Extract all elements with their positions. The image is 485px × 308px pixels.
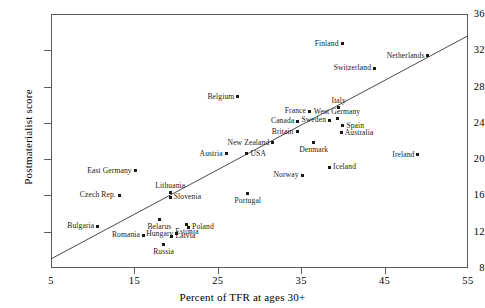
data-point-marker [416,153,419,156]
data-point-marker [158,218,161,221]
x-tick-label: 5 [31,276,71,286]
y-tick-mark [44,232,51,233]
data-point-label: Italy [332,97,346,105]
scatter-chart: 812162024283236 51525354555 FinlandNethe… [0,0,485,308]
data-point-label: Portugal [235,197,262,205]
data-point-marker [246,192,249,195]
data-point-label: New Zealand [228,139,270,147]
data-point-marker [118,194,121,197]
data-point-marker [187,226,190,229]
x-tick-label: 15 [114,276,154,286]
data-point-label: Russia [153,248,174,256]
data-point-marker [296,120,299,123]
x-axis-title: Percent of TFR at ages 30+ [0,291,485,303]
data-point-label: Czech Rep. [80,191,116,199]
data-point-label: Belgium [207,93,234,101]
data-point-marker [296,130,299,133]
data-point-label: Netherlands [387,52,425,60]
data-point-label: Ireland [392,151,414,159]
data-point-label: Romania [112,231,140,239]
data-point-marker [236,95,239,98]
data-point-marker [312,141,315,144]
data-point-marker [336,117,339,120]
y-tick-label: 24 [447,118,485,128]
data-point-label: Austria [200,150,223,158]
data-point-label: Norway [273,171,298,179]
data-point-label: East Germany [87,167,131,175]
data-point-label: Sweden [301,116,326,124]
y-tick-label: 28 [447,82,485,92]
data-point-marker [245,152,248,155]
data-point-label: Canada [271,117,294,125]
data-point-label: Hungary [146,230,173,238]
data-point-label: Slovenia [174,193,201,201]
y-tick-label: 12 [447,227,485,237]
x-tick-label: 55 [448,276,485,286]
data-point-label: Poland [192,223,214,231]
data-point-marker [328,119,331,122]
data-point-marker [426,54,429,57]
data-point-marker [308,110,311,113]
data-point-label: Australia [345,129,374,137]
y-tick-label: 8 [447,263,485,273]
y-tick-mark [44,87,51,88]
x-tick-mark [301,268,302,274]
data-point-label: Denmark [299,146,328,154]
x-tick-mark [218,268,219,274]
data-point-marker [96,225,99,228]
y-tick-label: 36 [447,9,485,19]
data-point-marker [301,174,304,177]
data-point-marker [341,42,344,45]
y-tick-label: 32 [447,45,485,55]
data-point-marker [169,191,172,194]
x-tick-mark [134,268,135,274]
data-point-marker [134,169,137,172]
data-point-label: Lithuania [155,182,185,190]
y-axis-title: Postmaterialist score [22,47,34,227]
y-tick-label: 20 [447,154,485,164]
data-point-label: Iceland [333,163,356,171]
x-tick-label: 25 [198,276,238,286]
y-tick-label: 16 [447,190,485,200]
data-point-marker [340,131,343,134]
y-tick-mark [44,123,51,124]
x-tick-label: 35 [281,276,321,286]
data-point-marker [142,234,145,237]
data-point-marker [373,67,376,70]
data-point-label: USA [250,150,266,158]
data-point-label: Bulgaria [67,222,94,230]
data-point-marker [225,152,228,155]
y-tick-mark [44,50,51,51]
x-tick-mark [385,268,386,274]
data-point-marker [341,124,344,127]
data-point-marker [328,166,331,169]
y-tick-mark [44,195,51,196]
data-point-label: Finland [315,40,339,48]
y-tick-mark [44,159,51,160]
data-point-marker [271,141,274,144]
data-point-label: Latvia [175,232,195,240]
data-point-label: Britain [272,128,294,136]
data-point-marker [170,235,173,238]
data-point-marker [162,243,165,246]
data-point-label: Switzerland [334,64,371,72]
x-tick-label: 45 [365,276,405,286]
data-point-marker [169,196,172,199]
data-point-label: France [285,107,306,115]
